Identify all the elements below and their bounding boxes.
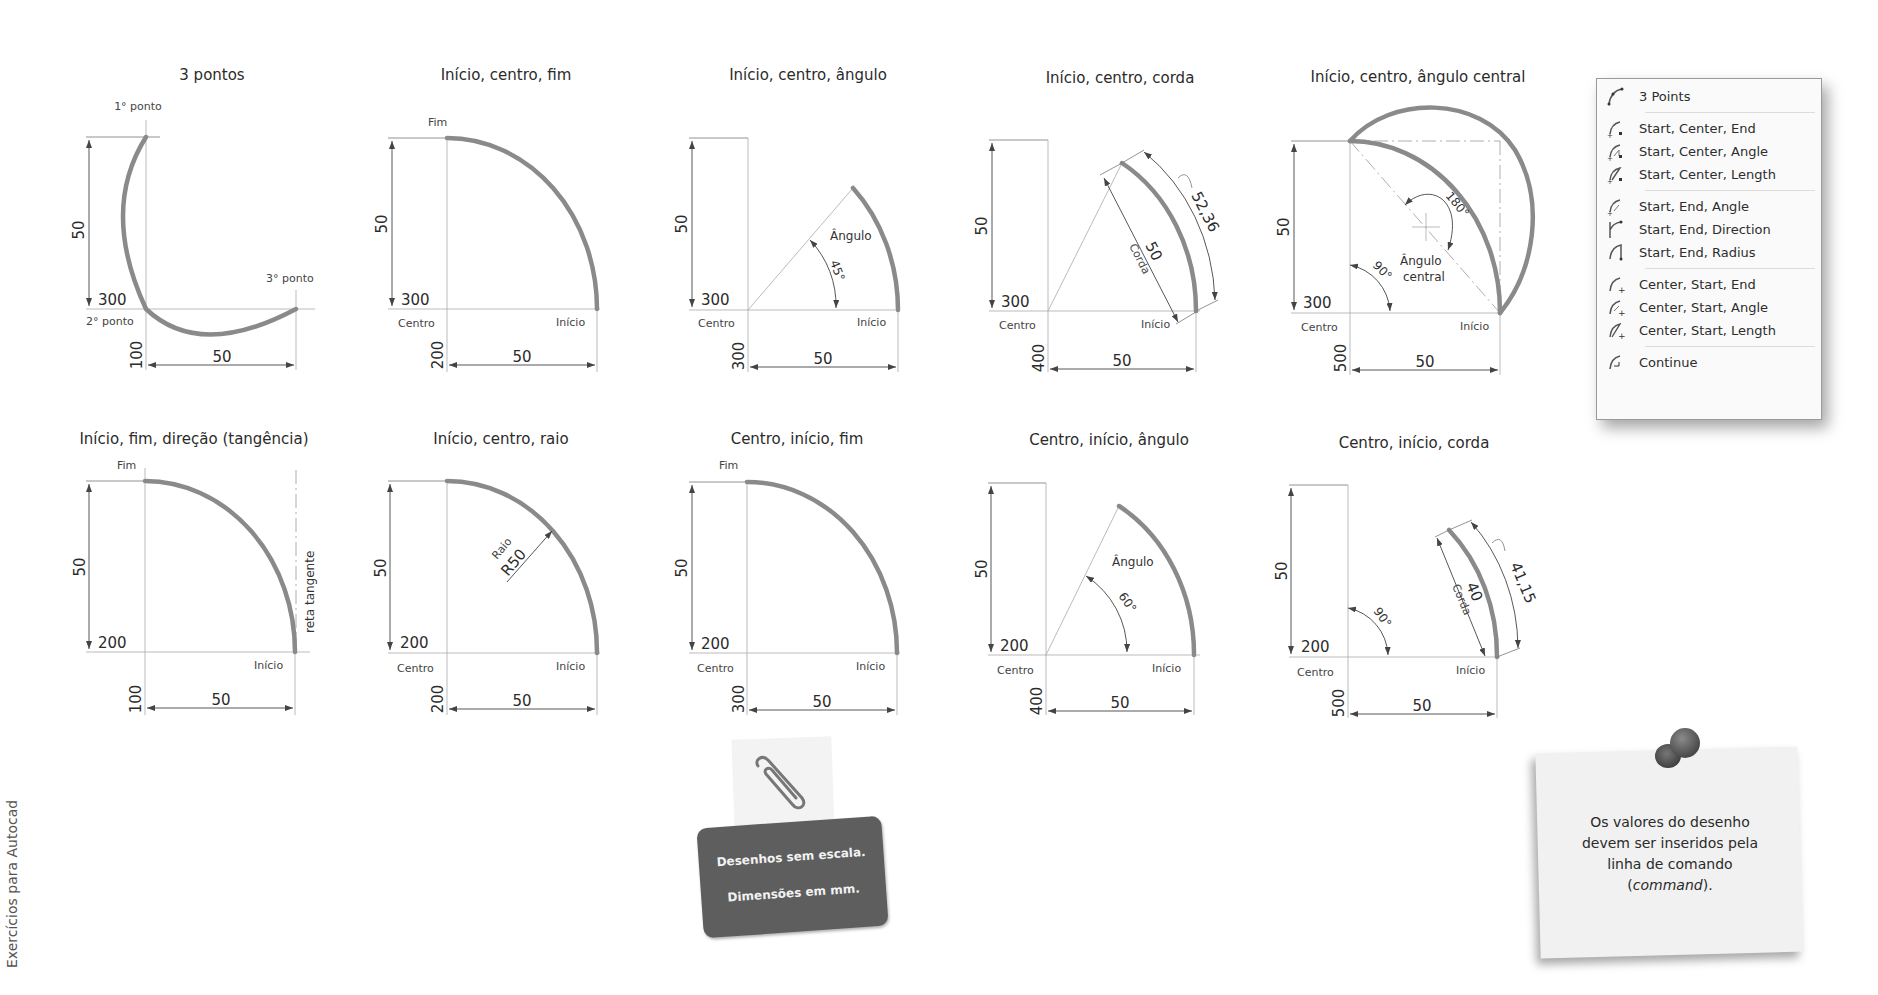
- label-start: Início: [254, 659, 283, 672]
- svg-text:200: 200: [1301, 638, 1330, 656]
- menu-item-start-center-length[interactable]: + Start, Center, Length: [1597, 161, 1821, 187]
- label-central-angle: Ângulo: [1400, 253, 1442, 268]
- arc-command-menu: 3 Points + Start, Center, End + Start, C…: [1596, 78, 1822, 420]
- panel-title: Início, centro, fim: [441, 66, 572, 84]
- label-center: Centro: [697, 662, 734, 675]
- svg-text:300: 300: [401, 291, 430, 309]
- menu-item-3-points[interactable]: 3 Points: [1597, 83, 1821, 109]
- svg-text:50: 50: [1412, 697, 1431, 715]
- svg-text:300: 300: [730, 342, 748, 371]
- svg-text:+: +: [1618, 331, 1626, 341]
- svg-text:200: 200: [1000, 637, 1029, 655]
- panel-title: 3 pontos: [179, 66, 245, 84]
- panel-inicio-centro-angulo: Início, centro, ângulo Ângulo 45° 50 300…: [673, 66, 900, 372]
- svg-text:50: 50: [1112, 352, 1131, 370]
- label-tangent-line: reta tangente: [303, 551, 317, 633]
- panel-title: Centro, início, ângulo: [1029, 431, 1189, 449]
- label-angle: Ângulo: [1112, 554, 1154, 569]
- label-center: Centro: [398, 317, 435, 330]
- arc-start-end-angle-icon: +: [1605, 195, 1627, 217]
- arc-start-center-angle-icon: +: [1605, 140, 1627, 162]
- panel-3-pontos: 3 pontos 1° ponto 50 300 2° ponto 3° pon…: [70, 66, 315, 370]
- label-start: Início: [1141, 318, 1170, 331]
- label-center: Centro: [1301, 321, 1338, 334]
- svg-text:50: 50: [512, 692, 531, 710]
- panel-title: Início, centro, ângulo central: [1311, 68, 1526, 86]
- menu-item-start-end-radius[interactable]: Start, End, Radius: [1597, 239, 1821, 265]
- panel-centro-inicio-angulo: Centro, início, ângulo Ângulo 60° 50 200…: [973, 431, 1200, 715]
- svg-text:500: 500: [1330, 689, 1348, 718]
- panel-inicio-centro-angulo-central: Início, centro, ângulo central 180° 90° …: [1275, 68, 1533, 375]
- panel-title: Início, centro, corda: [1046, 69, 1195, 87]
- label-point-2: 2° ponto: [86, 315, 134, 328]
- svg-text:50: 50: [1415, 353, 1434, 371]
- label-point-1: 1° ponto: [114, 100, 162, 113]
- label-center: Centro: [698, 317, 735, 330]
- svg-text:50: 50: [212, 348, 231, 366]
- svg-text:400: 400: [1030, 344, 1048, 373]
- label-end: Fim: [428, 116, 447, 129]
- label-center: Centro: [997, 664, 1034, 677]
- label-center: Centro: [999, 319, 1036, 332]
- arc-start-end-radius-icon: [1605, 241, 1627, 263]
- angle-value: 60°: [1116, 590, 1140, 615]
- label-start: Início: [1460, 320, 1489, 333]
- arc-center-start-length-icon: +: [1605, 319, 1627, 341]
- svg-text:50: 50: [813, 350, 832, 368]
- panel-inicio-fim-direcao: Início, fim, direção (tangência) Fim ret…: [71, 430, 317, 715]
- svg-text:50: 50: [1273, 561, 1291, 580]
- note-text: Os valores do desenho devem ser inserido…: [1550, 812, 1790, 896]
- svg-text:300: 300: [1303, 294, 1332, 312]
- note-card: Desenhos sem escala. Dimensões em mm.: [696, 816, 888, 939]
- panel-inicio-centro-fim: Início, centro, fim Fim 50 300 Centro In…: [373, 66, 600, 372]
- label-start: Início: [1152, 662, 1181, 675]
- label-start: Início: [556, 660, 585, 673]
- label-center: Centro: [397, 662, 434, 675]
- scale-note-card: Desenhos sem escala. Dimensões em mm.: [690, 730, 890, 950]
- svg-text:200: 200: [429, 685, 447, 714]
- note-line-1: Desenhos sem escala.: [698, 844, 884, 871]
- svg-text:50: 50: [373, 214, 391, 233]
- angle-value: 45°: [827, 258, 847, 283]
- svg-text:50: 50: [512, 348, 531, 366]
- label-start: Início: [556, 316, 585, 329]
- panel-inicio-centro-corda: Início, centro, corda 50 Corda 52,36 50 …: [973, 69, 1223, 372]
- svg-text:50: 50: [1110, 694, 1129, 712]
- angle-value: 90°: [1370, 258, 1395, 283]
- svg-text:50: 50: [211, 691, 230, 709]
- label-end: Fim: [117, 459, 136, 472]
- command-line-note: Os valores do desenho devem ser inserido…: [1530, 750, 1810, 960]
- label-start: Início: [856, 660, 885, 673]
- svg-text:300: 300: [1001, 293, 1030, 311]
- arc-start-end-direction-icon: [1605, 218, 1627, 240]
- panel-centro-inicio-fim: Centro, início, fim Fim 50 200 Centro In…: [673, 430, 900, 715]
- menu-item-continue[interactable]: Continue: [1597, 349, 1821, 375]
- svg-text:50: 50: [673, 558, 691, 577]
- svg-text:50: 50: [71, 557, 89, 576]
- arc-center-start-end-icon: +: [1605, 273, 1627, 295]
- svg-text:300: 300: [701, 291, 730, 309]
- label-end: Fim: [719, 459, 738, 472]
- svg-text:400: 400: [1028, 687, 1046, 716]
- svg-text:50: 50: [973, 559, 991, 578]
- svg-text:100: 100: [128, 341, 146, 370]
- svg-text:300: 300: [98, 291, 127, 309]
- menu-item-center-start-length[interactable]: + Center, Start, Length: [1597, 317, 1821, 343]
- svg-text:50: 50: [1275, 217, 1293, 236]
- svg-text:50: 50: [673, 214, 691, 233]
- label-start: Início: [1456, 664, 1485, 677]
- svg-text:50: 50: [372, 558, 390, 577]
- panel-title: Início, centro, ângulo: [729, 66, 887, 84]
- arc-continue-icon: [1605, 351, 1627, 373]
- panel-title: Início, centro, raio: [433, 430, 568, 448]
- svg-text:50: 50: [812, 693, 831, 711]
- arc-start-center-length-icon: +: [1605, 163, 1627, 185]
- svg-text:200: 200: [429, 341, 447, 370]
- svg-text:50: 50: [70, 220, 88, 239]
- arc-center-start-angle-icon: +: [1605, 296, 1627, 318]
- svg-text:500: 500: [1332, 344, 1350, 373]
- label-start: Início: [857, 316, 886, 329]
- arc-3points-icon: [1605, 85, 1627, 107]
- svg-text:300: 300: [730, 685, 748, 714]
- label-center: Centro: [1297, 666, 1334, 679]
